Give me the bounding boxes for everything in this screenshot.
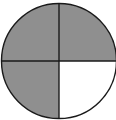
quadrant-top-left <box>2 4 60 62</box>
quadrant-bottom-right <box>59 61 116 119</box>
fraction-circle-diagram <box>0 0 116 120</box>
quadrant-bottom-left <box>2 61 60 119</box>
quadrant-top-right <box>59 4 116 62</box>
